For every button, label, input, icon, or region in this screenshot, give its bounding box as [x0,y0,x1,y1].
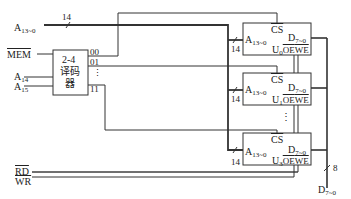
chip-u0-bus-width: 14 [231,44,240,54]
chip-u3-bus-width: 14 [231,157,240,167]
chip-u0-addr: A13~0 [245,35,267,48]
decoder-output-ellipsis: ⋮ [93,68,102,78]
mem-label: MEM [7,50,31,60]
chip-u0-cs: CS [271,25,283,35]
address-bus-width: 14 [62,12,71,22]
cs1-line [88,66,277,73]
chip-u0-id: U0OEWE [272,45,309,58]
chip-u3-cs: CS [271,135,283,145]
decoder-text-1: 译码 [60,67,80,77]
decoder-output-11: 11 [90,84,99,94]
decoder-output-01: 01 [90,57,99,67]
decoder-title: 2-4 [62,55,75,65]
a15-label: A15 [14,82,28,95]
address-low-label: A13~0 [14,23,36,36]
chip-ellipsis: ⋮ [281,112,291,122]
decoder-text-2: 器 [65,79,75,89]
chip-u1-id: U1OEWE [272,95,309,108]
data-bus-width: 8 [333,163,338,173]
chip-u1-bus-width: 14 [231,94,240,104]
data-bus-label: D7~0 [318,185,336,198]
chip-u1-cs: CS [271,75,283,85]
chip-u3-addr: A13~0 [245,147,267,160]
decoder-output-00: 00 [90,47,99,57]
chip-u3-id: U3OEWE [272,156,309,169]
wr-label: WR [15,177,31,187]
chip-u1-addr: A13~0 [245,85,267,98]
